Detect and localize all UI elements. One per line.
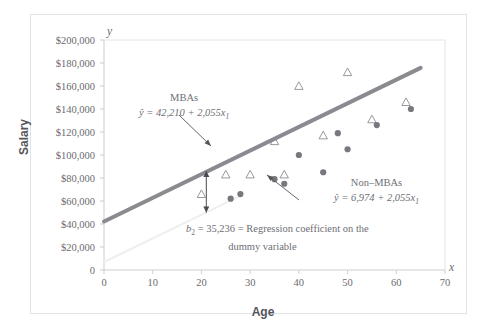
nonmba-equation: ŷ = 6,974 + 2,055x1 [334, 190, 419, 208]
data-point-nonmba [374, 122, 380, 128]
data-point-mba [319, 131, 327, 139]
gap-arrow-layer [203, 171, 209, 212]
dummy-coefficient-line2: dummy variable [186, 239, 369, 254]
data-point-mba [222, 170, 230, 178]
data-point-mba [246, 170, 254, 178]
data-point-mba [280, 170, 288, 178]
mba-annotation: MBAs ŷ = 42,210 + 2,055x1 [139, 90, 229, 123]
nonmba-label: Non–MBAs [334, 175, 419, 190]
mba-equation: ŷ = 42,210 + 2,055x1 [139, 105, 229, 123]
data-point-mba [295, 82, 303, 90]
plot-canvas [31, 15, 468, 315]
data-point-nonmba [335, 130, 341, 136]
data-point-nonmba [320, 169, 326, 175]
data-point-mba [368, 115, 376, 123]
data-point-nonmba [296, 152, 302, 158]
clipped-title-remnant: · · · · · · · [60, 0, 440, 6]
dummy-coefficient-annotation: b2 = 35,236 = Regression coefficient on … [186, 221, 369, 254]
y-axis-title: Salary [17, 119, 31, 155]
nonmba-annotation: Non–MBAs ŷ = 6,974 + 2,055x1 [334, 175, 419, 208]
data-point-mba [343, 68, 351, 76]
data-point-nonmba [237, 191, 243, 197]
figure-frame: Salary Age y x 0$20,000$40,000$60,000$80… [30, 14, 467, 314]
data-point-nonmba [344, 146, 350, 152]
figure-root: · · · · · · · Salary Age y x 0$20,000$40… [0, 0, 492, 328]
dummy-coefficient-line1: b2 = 35,236 = Regression coefficient on … [186, 221, 369, 239]
data-point-mba [402, 98, 410, 106]
data-point-nonmba [228, 196, 234, 202]
mba-label: MBAs [139, 90, 229, 105]
data-point-mba [197, 190, 205, 198]
data-point-nonmba [281, 181, 287, 187]
data-point-nonmba [408, 106, 414, 112]
